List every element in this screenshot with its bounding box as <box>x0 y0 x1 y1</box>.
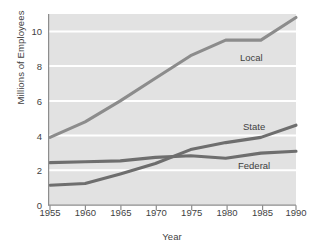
x-tick-1965: 1965 <box>104 208 138 218</box>
x-tick-1990: 1990 <box>279 208 313 218</box>
x-tick-1960: 1960 <box>68 208 102 218</box>
x-tick-1985: 1985 <box>246 208 280 218</box>
x-tick-1975: 1975 <box>175 208 209 218</box>
chart-figure: 0 2 4 6 8 10 1955 1960 1965 1970 1975 19… <box>0 0 316 249</box>
y-tick-8: 8 <box>24 62 42 72</box>
y-axis-title: Millions of Employees <box>15 0 26 138</box>
x-axis-title: Year <box>48 231 296 242</box>
y-tick-4: 4 <box>24 132 42 142</box>
series-label-local: Local <box>240 52 263 63</box>
plot-background <box>48 14 296 205</box>
x-tick-1970: 1970 <box>139 208 173 218</box>
y-tick-2: 2 <box>24 166 42 176</box>
series-label-state: State <box>243 121 265 132</box>
series-label-federal: Federal <box>238 160 270 171</box>
y-tick-6: 6 <box>24 97 42 107</box>
x-tick-1980: 1980 <box>210 208 244 218</box>
x-tick-1955: 1955 <box>33 208 67 218</box>
